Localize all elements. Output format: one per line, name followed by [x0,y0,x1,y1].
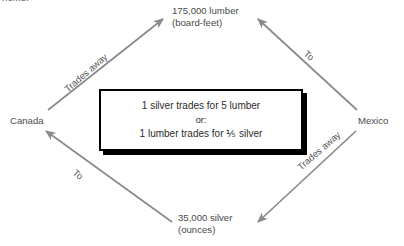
exchange-rate-callout: 1 silver trades for 5 lumber or: 1 lumbe… [99,89,303,151]
node-label-mexico: Mexico [358,115,388,127]
exchange-rate-line-2: or: [140,113,263,127]
node-canada-line1: Canada [10,115,44,126]
trade-flow-diagram: home. 175,000 lumber (board-feet) 35,000… [0,0,404,246]
node-mexico-line1: Mexico [358,115,388,126]
node-lumber-line2: (board-feet) [172,17,239,29]
exchange-rate-line-3: 1 lumber trades for ⅕ silver [140,127,263,141]
node-silver-line2: (ounces) [178,224,232,236]
node-silver-line1: 35,000 silver [178,212,232,223]
node-lumber-line1: 175,000 lumber [172,5,239,16]
node-label-lumber: 175,000 lumber (board-feet) [172,5,239,28]
node-label-silver: 35,000 silver (ounces) [178,212,232,235]
exchange-rate-line-1: 1 silver trades for 5 lumber [140,99,263,113]
exchange-rate-text: 1 silver trades for 5 lumber or: 1 lumbe… [140,99,263,141]
node-label-canada: Canada [10,115,44,127]
